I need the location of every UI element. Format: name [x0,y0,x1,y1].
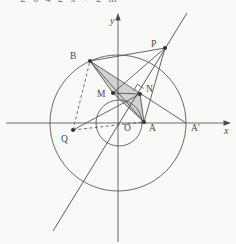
label-O: O [124,123,131,133]
line-through-P-O [53,13,187,231]
segment-B-P [90,48,165,61]
label-Q: Q [61,134,68,144]
label-P: P [151,39,156,49]
y-axis-label: y [109,15,115,26]
y-axis-arrowhead-icon [115,13,120,21]
point-P-dot [163,46,167,50]
point-B-dot [88,59,92,63]
label-Ap: A′ [191,123,200,133]
math-figure-page: — 2 6 4 2 x + 2 m OAA′BPMNQxy [0,0,236,244]
x-axis-label: x [223,125,229,136]
label-B: B [70,51,76,61]
geometry-diagram: OAA′BPMNQxy [0,0,236,244]
label-A: A [149,123,156,133]
point-A-dot [142,120,146,124]
label-M: M [97,89,106,99]
point-M-dot [111,91,115,95]
point-Q-dot [71,128,75,132]
point-N-dot [138,92,142,96]
dashed-segment-Q-B [73,61,90,130]
label-N: N [146,84,153,94]
